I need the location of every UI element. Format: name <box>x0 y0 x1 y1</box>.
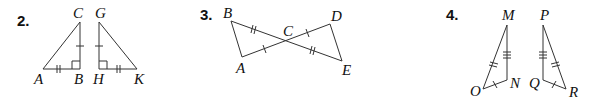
label-k: K <box>133 71 145 87</box>
label-h: H <box>92 71 105 87</box>
problem-number: 3. <box>200 6 213 23</box>
tick-mo-2 <box>489 65 497 67</box>
segment-de <box>330 24 342 61</box>
label-g: G <box>95 5 106 21</box>
triangle-mno <box>483 25 507 89</box>
triangle-ghk <box>99 22 137 69</box>
label-a: A <box>33 71 44 87</box>
label-e: E <box>341 62 351 78</box>
geometry-figures: 2. C G A B H K 3. <box>0 0 600 98</box>
label-o: O <box>470 83 481 98</box>
problem-3: 3. B C D A E <box>200 5 351 78</box>
label-a: A <box>235 60 246 76</box>
right-angle-mark-h <box>99 61 107 69</box>
label-m: M <box>501 7 516 23</box>
triangle-abc <box>43 22 80 69</box>
label-b: B <box>223 5 232 21</box>
tick-pr-2 <box>552 65 560 67</box>
segment-ba <box>231 21 242 57</box>
problem-number: 4. <box>446 6 459 23</box>
tick-mo-1 <box>490 62 498 64</box>
label-d: D <box>330 8 342 24</box>
label-n: N <box>509 75 521 91</box>
problem-2: 2. C G A B H K <box>17 5 145 87</box>
label-b: B <box>74 71 83 87</box>
label-c: C <box>283 23 294 39</box>
problem-4: 4. M P O N Q R <box>446 6 578 98</box>
label-r: R <box>568 84 578 98</box>
problem-number: 2. <box>17 12 30 29</box>
label-p: P <box>539 7 549 23</box>
label-c: C <box>73 5 84 21</box>
tick-pr-1 <box>551 62 559 64</box>
right-angle-mark-b <box>72 61 80 69</box>
label-q: Q <box>529 75 540 91</box>
triangle-pqr <box>543 25 566 89</box>
